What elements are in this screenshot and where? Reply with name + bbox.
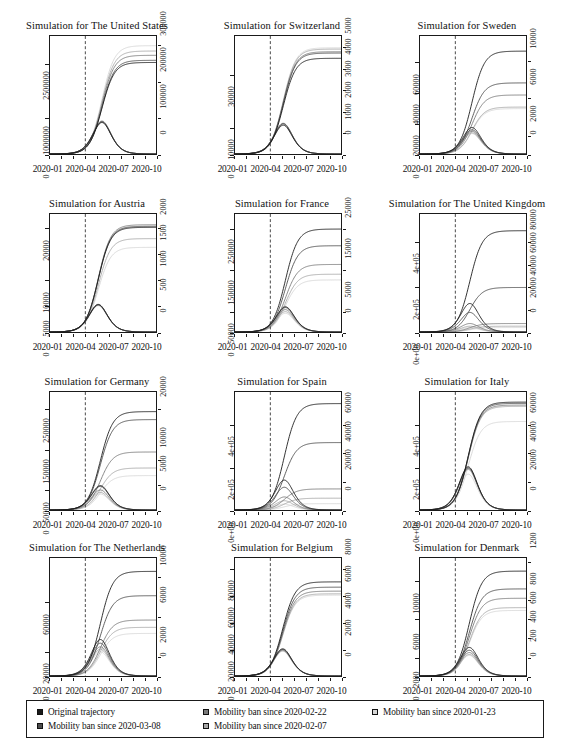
x-axis-tick-label: 2020-10 xyxy=(131,686,161,696)
legend-item[interactable]: Mobility ban since 2020-03-08 xyxy=(37,721,161,731)
cumulative-curve xyxy=(235,274,341,332)
x-axis-tick xyxy=(145,512,146,516)
x-axis-tick-label: 2020-04 xyxy=(251,686,281,696)
cumulative-curve xyxy=(50,571,156,676)
x-axis-tick-labels: 2020-012020-042020-072020-10 xyxy=(187,342,377,352)
x-axis-tick xyxy=(515,334,516,338)
x-axis-tick xyxy=(294,334,295,338)
incidence-curve xyxy=(50,121,156,154)
x-axis-tick-label: 2020-10 xyxy=(131,164,161,174)
y-axis-right-label: 20000 xyxy=(159,365,168,409)
incidence-curve xyxy=(50,122,156,154)
y-axis-right-label: 6000 xyxy=(159,573,168,617)
legend-item-label: Mobility ban since 2020-03-08 xyxy=(48,721,161,731)
simulation-panel: Simulation for Belgium020000400006000080… xyxy=(187,540,377,718)
x-axis-tick-label: 2020-07 xyxy=(469,164,499,174)
incidence-curve xyxy=(50,306,156,332)
y-axis-right-tick xyxy=(158,657,162,658)
x-axis-tick-label: 2020-01 xyxy=(403,520,433,530)
x-axis-tick xyxy=(527,156,528,160)
x-axis-tick-label: 2020-04 xyxy=(66,686,96,696)
incidence-curve xyxy=(235,125,341,154)
x-axis-tick xyxy=(306,334,307,338)
y-axis-right-tick xyxy=(528,658,532,659)
x-axis-tick xyxy=(97,156,98,160)
cumulative-curve xyxy=(420,405,526,510)
cumulative-curve xyxy=(420,51,526,154)
cumulative-curve xyxy=(50,225,156,332)
x-axis-tick xyxy=(246,156,247,160)
legend-item[interactable]: Original trajectory xyxy=(37,707,115,717)
x-axis-tick xyxy=(443,678,444,682)
x-axis-tick-label: 2020-10 xyxy=(501,164,531,174)
x-axis-tick xyxy=(515,678,516,682)
legend-item[interactable]: Mobility ban since 2020-02-07 xyxy=(203,721,327,731)
x-axis-tick xyxy=(431,512,432,516)
y-axis-right-tick xyxy=(343,482,347,483)
x-axis-tick-labels: 2020-012020-042020-072020-10 xyxy=(2,342,192,352)
x-axis-tick xyxy=(479,512,480,516)
x-axis-tick xyxy=(294,512,295,516)
y-axis-left-label: 10000 xyxy=(412,581,421,625)
incidence-curve xyxy=(50,486,156,510)
x-axis-tick xyxy=(49,678,50,682)
x-axis-tick xyxy=(109,678,110,682)
y-axis-right-tick xyxy=(528,619,532,620)
simulation-panel: Simulation for The United States01000000… xyxy=(2,18,192,196)
x-axis-tick xyxy=(503,512,504,516)
x-axis-tick xyxy=(258,156,259,160)
legend-swatch-icon xyxy=(37,709,43,715)
x-axis-tick xyxy=(85,512,86,516)
y-axis-right-tick xyxy=(158,409,162,410)
x-axis-tick-labels: 2020-012020-042020-072020-10 xyxy=(2,686,192,696)
x-axis-tick xyxy=(258,334,259,338)
x-axis-tick xyxy=(73,156,74,160)
simulation-panel-grid: Simulation for The United States01000000… xyxy=(0,0,570,748)
x-axis-tick-label: 2020-10 xyxy=(131,342,161,352)
x-axis-tick xyxy=(527,512,528,516)
x-axis-tick xyxy=(431,156,432,160)
x-axis-tick xyxy=(133,678,134,682)
x-axis-tick xyxy=(294,678,295,682)
x-axis-tick-labels: 2020-012020-042020-072020-10 xyxy=(2,164,192,174)
x-axis-tick xyxy=(294,156,295,160)
y-axis-right-label: 15000 xyxy=(344,226,353,270)
x-axis-tick xyxy=(270,678,271,682)
x-axis-tick xyxy=(467,156,468,160)
legend-item[interactable]: Mobility ban since 2020-02-22 xyxy=(203,707,327,717)
simulation-panel: Simulation for Sweden0200004000060000020… xyxy=(372,18,562,196)
cumulative-curve xyxy=(235,48,341,154)
x-axis-tick xyxy=(133,334,134,338)
x-axis-tick xyxy=(419,156,420,160)
cumulative-curve xyxy=(420,231,526,332)
legend-item-label: Mobility ban since 2020-02-22 xyxy=(214,707,327,717)
legend-item-label: Original trajectory xyxy=(48,707,115,717)
cumulative-curve xyxy=(50,60,156,154)
y-axis-left-label: 2500000 xyxy=(42,64,51,108)
x-axis-tick xyxy=(419,334,420,338)
x-axis-tick-label: 2020-04 xyxy=(436,342,466,352)
x-axis-tick-label: 2020-10 xyxy=(316,686,346,696)
incidence-curve xyxy=(420,470,526,510)
y-axis-right-tick xyxy=(343,270,347,271)
x-axis-tick xyxy=(318,512,319,516)
cumulative-curve xyxy=(235,52,341,154)
y-axis-right-tick xyxy=(343,333,347,334)
x-axis-tick xyxy=(61,156,62,160)
legend-item[interactable]: Mobility ban since 2020-01-23 xyxy=(372,707,496,717)
cumulative-curve xyxy=(50,227,156,332)
x-axis-tick xyxy=(491,156,492,160)
x-axis-tick-label: 2020-04 xyxy=(436,520,466,530)
x-axis-tick xyxy=(109,156,110,160)
legend-swatch-icon xyxy=(37,723,43,729)
x-axis-tick-labels: 2020-012020-042020-072020-10 xyxy=(2,520,192,530)
x-axis-tick xyxy=(491,678,492,682)
x-axis-tick-label: 2020-01 xyxy=(403,686,433,696)
x-axis-tick xyxy=(306,678,307,682)
x-axis-tick xyxy=(133,512,134,516)
y-axis-right-label: 60000 xyxy=(529,381,538,425)
y-axis-right-label: 10000 xyxy=(529,17,538,61)
y-axis-right-tick xyxy=(528,61,532,62)
x-axis-tick xyxy=(467,512,468,516)
x-axis-tick xyxy=(306,512,307,516)
